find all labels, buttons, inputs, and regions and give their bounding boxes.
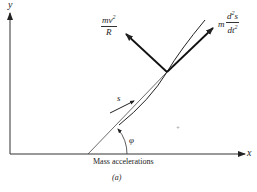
figure-caption: Mass accelerations xyxy=(93,158,154,166)
tangential-dt: dt xyxy=(228,25,235,35)
normal-denominator: R xyxy=(106,28,112,37)
tangential-acceleration-vector xyxy=(167,28,213,72)
tangential-acceleration-label: d2s dt2 xyxy=(226,10,239,35)
y-axis-label: y xyxy=(8,0,12,10)
normal-numerator: mv xyxy=(102,15,113,25)
arc-length-label: s xyxy=(117,94,121,103)
tangential-den-exponent: 2 xyxy=(235,24,238,30)
angle-arc xyxy=(118,129,127,154)
angle-label: φ xyxy=(129,136,134,145)
s-direction-arrow xyxy=(110,101,134,113)
fraction-bar xyxy=(226,22,239,23)
normal-acceleration-label: mv2 R xyxy=(101,14,117,37)
tangential-s: s xyxy=(235,11,239,21)
x-axis-label: x xyxy=(247,148,251,158)
normal-acceleration-vector xyxy=(126,34,167,72)
tangential-mass-prefix: m xyxy=(218,20,225,29)
figure-sublabel: (a) xyxy=(112,174,121,182)
tangent-line xyxy=(88,72,167,154)
trajectory-curve xyxy=(119,20,205,125)
stray-mark xyxy=(177,126,180,129)
normal-exponent: 2 xyxy=(113,14,116,20)
